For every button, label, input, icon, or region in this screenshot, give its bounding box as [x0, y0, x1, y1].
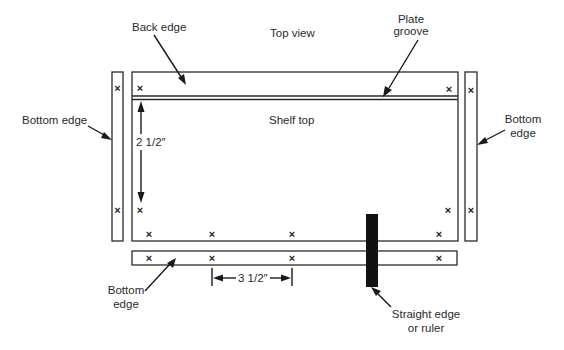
x-mark: ×: [289, 228, 295, 240]
arrowhead-left-icon: [213, 275, 223, 282]
x-mark: ×: [446, 83, 452, 95]
x-mark: ×: [289, 252, 295, 264]
bottom-edge-lower-label-line2: edge: [113, 298, 139, 310]
bottom-edge-left-label: Bottom edge: [22, 114, 87, 126]
shelf-top-panel: [132, 72, 458, 241]
bottom-edge-right-arrowhead-icon: [477, 137, 488, 145]
straight-edge-label-line2: or ruler: [408, 322, 445, 334]
x-mark: ×: [146, 228, 152, 240]
straight-edge-label-line1: Straight edge: [392, 308, 460, 320]
x-mark: ×: [468, 204, 474, 216]
x-mark: ×: [137, 82, 143, 94]
bottom-edge-lower-label-line1: Bottom: [108, 284, 144, 296]
vertical-dimension-label: 2 1/2″: [136, 136, 166, 148]
arrowhead-right-icon: [281, 275, 291, 282]
x-mark: ×: [445, 204, 451, 216]
x-mark: ×: [436, 228, 442, 240]
plate-groove-label-line2: groove: [393, 25, 428, 37]
back-edge-label: Back edge: [132, 21, 186, 33]
x-mark: ×: [114, 82, 120, 94]
x-mark: ×: [146, 252, 152, 264]
x-mark: ×: [209, 252, 215, 264]
diagram-title: Top view: [270, 27, 315, 39]
straight-edge-ruler: [366, 214, 378, 287]
x-mark: ×: [468, 84, 474, 96]
x-mark: ×: [209, 228, 215, 240]
shelf-layout-diagram: × × × × × × × × × × × × × × × × 2 1/2″ 3…: [0, 0, 564, 350]
horizontal-dimension: 3 1/2″: [212, 268, 292, 286]
plate-groove-label-line1: Plate: [398, 13, 424, 25]
bottom-edge-left-arrowhead-icon: [101, 132, 112, 140]
shelf-top-label: Shelf top: [269, 114, 314, 126]
x-mark: ×: [114, 204, 120, 216]
x-mark: ×: [436, 252, 442, 264]
horizontal-dimension-label: 3 1/2″: [238, 272, 268, 284]
bottom-edge-right-label-line2: edge: [510, 127, 536, 139]
x-mark: ×: [137, 204, 143, 216]
bottom-edge-right-label-line1: Bottom: [505, 113, 541, 125]
